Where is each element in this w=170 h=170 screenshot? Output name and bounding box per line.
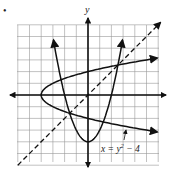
sideways-parabola-upper [41, 58, 157, 95]
bullet: • [3, 5, 7, 16]
curve-label: x = y2 − 4 [100, 142, 140, 154]
sideways-parabola-lower [41, 95, 157, 132]
upward-parabola-right [88, 40, 123, 142]
upward-parabola-left [54, 40, 89, 142]
y-axis-label: y [84, 4, 90, 15]
label-pointer [124, 130, 126, 140]
graph: • y x = y2 − 4 [0, 0, 170, 170]
